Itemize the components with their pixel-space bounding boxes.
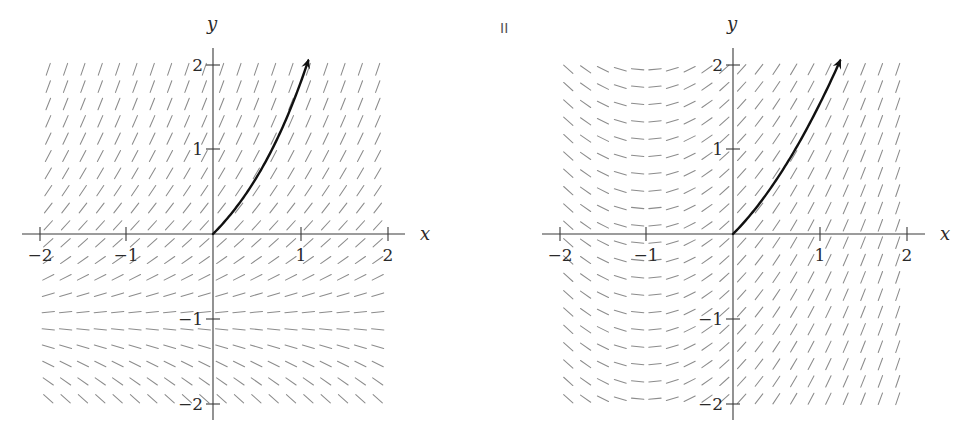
slope-segment — [564, 273, 573, 281]
slope-segment — [94, 293, 106, 297]
slope-segment — [268, 345, 280, 349]
slope-segment — [337, 311, 349, 312]
slope-segment — [62, 185, 69, 195]
slope-segment — [896, 115, 900, 127]
slope-segment — [233, 275, 244, 281]
slope-segment — [375, 116, 380, 127]
slope-segment — [269, 256, 279, 263]
slope-segment — [77, 275, 88, 281]
slope-segment — [181, 275, 192, 281]
slope-segment — [826, 358, 831, 369]
slope-segment — [791, 220, 797, 231]
slope-segment — [320, 275, 331, 281]
slope-segment — [220, 81, 224, 93]
slope-segment — [791, 376, 797, 387]
slope-segment — [355, 275, 366, 281]
slope-segment — [861, 272, 866, 284]
slope-segment — [286, 395, 295, 403]
slope-segment — [97, 185, 104, 195]
slope-segment — [597, 309, 608, 315]
slope-segment — [773, 99, 780, 109]
y-tick-label-right: −2 — [698, 394, 723, 414]
slope-segment — [843, 254, 848, 265]
slope-segment — [773, 359, 780, 369]
slope-segment — [649, 103, 661, 104]
slope-segment — [720, 377, 729, 385]
slope-segment — [150, 81, 154, 93]
slope-segment — [755, 186, 763, 196]
slope-segment — [666, 172, 678, 176]
slope-segment — [773, 342, 780, 352]
solution-curve-right — [733, 61, 840, 234]
slope-segment — [286, 256, 296, 263]
slope-segment — [81, 81, 85, 93]
slope-segment — [702, 274, 712, 281]
slope-segment — [372, 329, 384, 330]
slope-segment — [808, 393, 814, 404]
x-tick-label-left: 1 — [296, 245, 307, 265]
slope-segment — [702, 135, 712, 142]
slope-segment — [357, 168, 363, 179]
slope-segment — [185, 81, 189, 93]
slope-segment — [132, 133, 137, 144]
slope-segment — [581, 326, 591, 333]
slope-field-figure: II −2 −1 1 2 2 1 −1 −2 x — [0, 0, 961, 440]
slope-segment — [201, 168, 207, 179]
slope-segment — [289, 116, 294, 127]
slope-segment — [702, 222, 712, 229]
slope-segment — [564, 82, 573, 90]
slope-segment — [896, 237, 900, 249]
slope-segment — [323, 98, 328, 110]
slope-segment — [288, 168, 294, 179]
slope-segment — [287, 203, 295, 213]
slope-segment — [251, 378, 261, 385]
slope-segment — [861, 341, 866, 353]
slope-segment — [649, 242, 661, 243]
slope-segment — [684, 188, 695, 194]
slope-segment — [147, 361, 158, 367]
slope-segment — [614, 310, 626, 314]
slope-segment — [684, 101, 695, 107]
slope-segment — [59, 311, 71, 312]
slope-segment — [80, 116, 85, 127]
slope-segment — [95, 275, 106, 281]
slope-segment — [843, 185, 848, 196]
slope-segment — [791, 116, 797, 127]
slope-segment — [631, 363, 643, 364]
slope-segment — [684, 327, 695, 333]
slope-segment — [720, 273, 729, 281]
slope-segment — [581, 291, 591, 298]
slope-segment — [861, 133, 866, 145]
slope-segment — [861, 358, 866, 370]
slope-segment — [149, 185, 156, 195]
slope-segment — [61, 378, 71, 385]
slope-segment — [666, 276, 678, 280]
slope-segment — [355, 378, 365, 385]
slope-segment — [755, 64, 763, 74]
slope-segment — [896, 81, 900, 93]
slope-segment — [826, 168, 831, 179]
slope-segment — [285, 311, 297, 312]
slope-segment — [219, 98, 224, 110]
slope-segment — [631, 190, 643, 191]
slope-segment — [323, 150, 329, 161]
slope-segment — [355, 256, 365, 263]
slope-segment — [843, 393, 848, 404]
slope-segment — [43, 275, 54, 281]
slope-segment — [132, 168, 138, 179]
slope-segment — [98, 133, 103, 144]
slope-segment — [808, 64, 814, 75]
slope-segment — [285, 329, 297, 330]
slope-segment — [288, 150, 294, 161]
slope-segment — [80, 185, 87, 195]
slope-segment — [79, 203, 87, 213]
x-tick-label-left: −2 — [27, 245, 52, 265]
slope-segment — [302, 293, 314, 297]
slope-segment — [614, 380, 626, 384]
slope-segment — [270, 221, 278, 230]
slope-segment — [268, 293, 280, 297]
slope-segment — [199, 275, 210, 281]
slope-segment — [773, 324, 780, 334]
slope-segment — [738, 238, 746, 247]
slope-segment — [878, 254, 882, 266]
